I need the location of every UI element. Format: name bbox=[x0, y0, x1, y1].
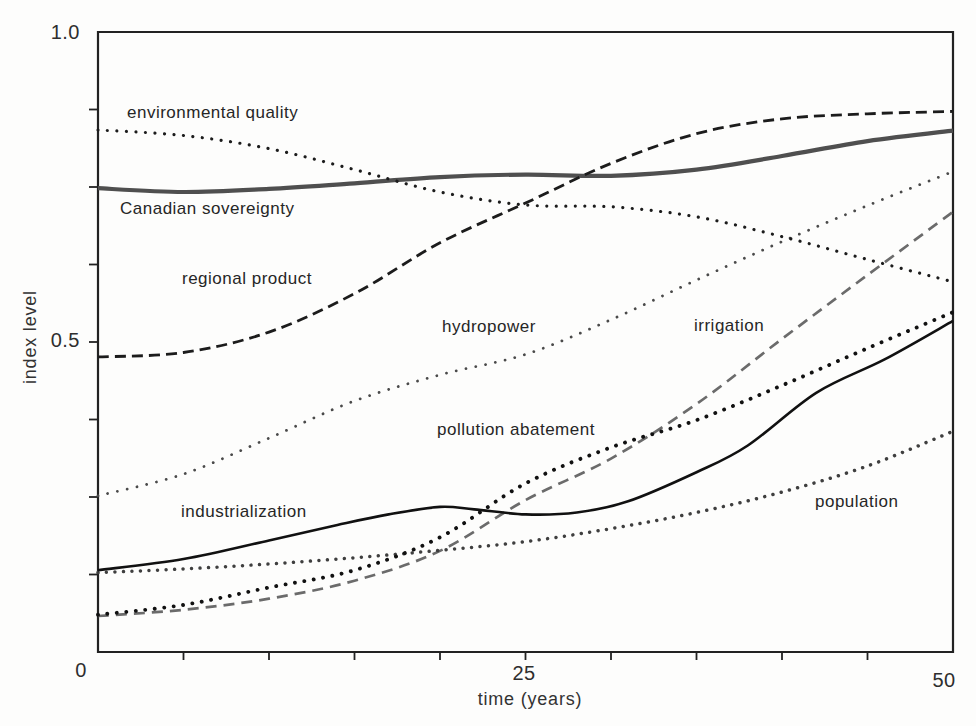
y-axis-title: index level bbox=[20, 290, 41, 384]
series-label-environmental-quality: environmental quality bbox=[127, 103, 298, 123]
y-tick-label-0-5: 0.5 bbox=[44, 329, 80, 352]
series-label-industrialization: industrialization bbox=[181, 502, 307, 522]
series-label-pollution-abatement: pollution abatement bbox=[437, 420, 595, 440]
x-axis-title: time (years) bbox=[430, 689, 630, 710]
series-label-population: population bbox=[815, 492, 898, 512]
figure: 1.0 0.5 index level 0 25 50 time (years)… bbox=[0, 0, 976, 726]
x-tick-label-50: 50 bbox=[922, 669, 966, 692]
series-label-irrigation: irrigation bbox=[694, 316, 764, 336]
y-tick-label-1-0: 1.0 bbox=[44, 21, 80, 44]
series-label-canadian-sovereignty: Canadian sovereignty bbox=[120, 199, 294, 219]
x-tick-label-25: 25 bbox=[502, 662, 546, 685]
series-label-regional-product: regional product bbox=[182, 269, 312, 289]
series-label-hydropower: hydropower bbox=[442, 317, 536, 337]
x-tick-label-0: 0 bbox=[66, 659, 96, 682]
